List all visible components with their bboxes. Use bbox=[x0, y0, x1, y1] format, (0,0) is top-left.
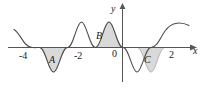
graph-figure: y x -4 -2 0 2 A B C bbox=[0, 0, 211, 91]
plot-canvas bbox=[0, 0, 211, 91]
shaded-region-c bbox=[137, 48, 165, 73]
x-tick-label-minus-4: -4 bbox=[19, 51, 27, 61]
y-axis-label: y bbox=[111, 4, 115, 14]
region-label-a: A bbox=[49, 55, 55, 65]
x-axis-label: x bbox=[193, 46, 197, 56]
y-axis-arrowhead bbox=[120, 3, 126, 9]
region-label-b: B bbox=[96, 31, 102, 41]
x-tick-label-minus-2: -2 bbox=[74, 51, 82, 61]
origin-label: 0 bbox=[112, 49, 117, 59]
region-label-c: C bbox=[144, 55, 151, 65]
x-tick-label-2: 2 bbox=[169, 50, 174, 60]
